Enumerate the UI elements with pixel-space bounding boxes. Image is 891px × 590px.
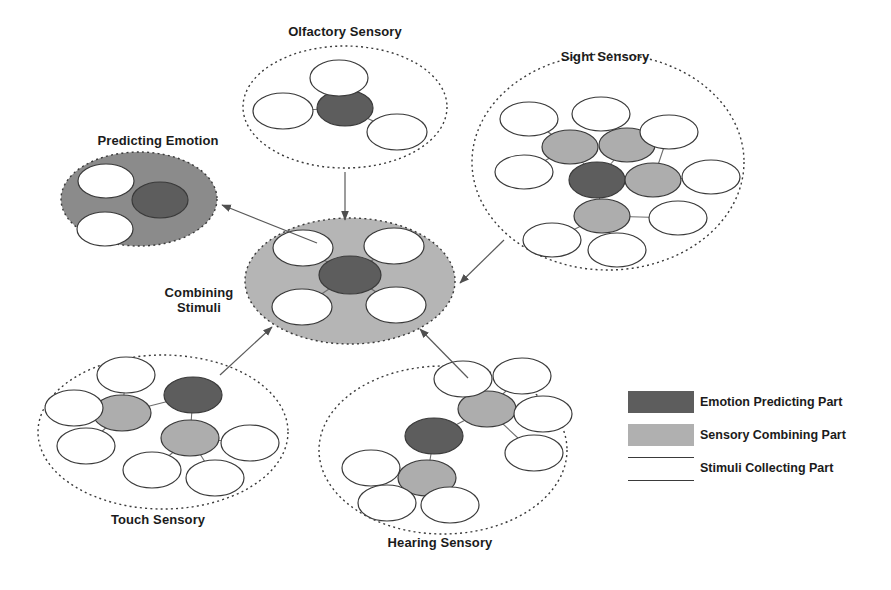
- node-stimuli-collecting-olfactory-sensory-3: [367, 114, 427, 150]
- diagram-canvas: Olfactory SensorySight SensoryTouch Sens…: [0, 0, 891, 590]
- node-stimuli-collecting-touch-sensory-8: [221, 425, 279, 461]
- node-stimuli-collecting-hearing-sensory-9: [421, 487, 479, 523]
- node-stimuli-collecting-touch-sensory-3: [97, 357, 155, 393]
- node-stimuli-collecting-touch-sensory-4: [45, 390, 103, 426]
- node-emotion-predicting-touch-sensory-0: [164, 377, 222, 413]
- node-stimuli-collecting-hearing-sensory-3: [434, 361, 492, 397]
- node-stimuli-collecting-hearing-sensory-8: [358, 485, 416, 521]
- legend-swatch-emotion-predicting-part: [628, 391, 694, 413]
- node-stimuli-collecting-sight-sensory-12: [588, 233, 646, 267]
- node-sensory-combining-sight-sensory-1: [542, 130, 598, 164]
- flow-arrow-sight-to-combining: [460, 240, 504, 283]
- node-emotion-predicting-hearing-sensory-0: [405, 418, 463, 454]
- cluster-label-sight-sensory: Sight Sensory: [561, 49, 650, 64]
- flow-arrow-combining-to-predicting: [222, 205, 317, 243]
- cluster-label-predicting-emotion: Predicting Emotion: [98, 133, 219, 148]
- node-stimuli-collecting-touch-sensory-6: [123, 452, 181, 488]
- node-stimuli-collecting-combining-stimuli-3: [272, 289, 332, 325]
- node-stimuli-collecting-combining-stimuli-2: [364, 228, 424, 264]
- node-sensory-combining-sight-sensory-4: [574, 199, 630, 233]
- node-stimuli-collecting-olfactory-sensory-2: [253, 93, 313, 129]
- node-emotion-predicting-predicting-emotion-0: [132, 182, 188, 218]
- cluster-label-combining-stimuli: Combining Stimuli: [165, 285, 234, 316]
- node-stimuli-collecting-hearing-sensory-6: [505, 435, 563, 471]
- cluster-label-touch-sensory: Touch Sensory: [111, 512, 205, 527]
- node-stimuli-collecting-predicting-emotion-2: [77, 212, 133, 246]
- node-stimuli-collecting-combining-stimuli-4: [366, 287, 426, 323]
- node-stimuli-collecting-sight-sensory-9: [682, 160, 740, 194]
- node-stimuli-collecting-sight-sensory-10: [649, 201, 707, 235]
- node-stimuli-collecting-touch-sensory-5: [57, 428, 115, 464]
- cluster-label-hearing-sensory: Hearing Sensory: [388, 535, 493, 550]
- node-stimuli-collecting-sight-sensory-6: [572, 97, 630, 131]
- legend-label-stimuli-collecting-part: Stimuli Collecting Part: [700, 461, 833, 475]
- node-emotion-predicting-combining-stimuli-0: [319, 256, 381, 294]
- node-stimuli-collecting-predicting-emotion-1: [78, 164, 134, 198]
- node-stimuli-collecting-sight-sensory-5: [500, 102, 558, 136]
- node-stimuli-collecting-sight-sensory-7: [640, 115, 698, 149]
- node-sensory-combining-sight-sensory-3: [625, 163, 681, 197]
- cluster-label-olfactory-sensory: Olfactory Sensory: [288, 24, 402, 39]
- cluster-nodes-layer: [45, 60, 740, 523]
- legend-swatch-sensory-combining-part: [628, 424, 694, 446]
- diagram-svg: [0, 0, 891, 590]
- flow-arrow-touch-to-combining: [220, 327, 272, 375]
- node-sensory-combining-touch-sensory-2: [161, 420, 219, 456]
- legend-swatch-stimuli-collecting-part: [628, 457, 694, 481]
- legend-label-emotion-predicting-part: Emotion Predicting Part: [700, 395, 842, 409]
- node-stimuli-collecting-hearing-sensory-7: [342, 450, 400, 486]
- node-stimuli-collecting-combining-stimuli-1: [273, 230, 333, 266]
- legend-label-sensory-combining-part: Sensory Combining Part: [700, 428, 846, 442]
- node-stimuli-collecting-sight-sensory-8: [495, 155, 553, 189]
- node-stimuli-collecting-sight-sensory-11: [523, 223, 581, 257]
- node-emotion-predicting-sight-sensory-0: [569, 162, 625, 198]
- node-stimuli-collecting-touch-sensory-7: [186, 460, 244, 496]
- node-stimuli-collecting-hearing-sensory-4: [493, 358, 551, 394]
- node-stimuli-collecting-olfactory-sensory-1: [310, 60, 368, 96]
- node-stimuli-collecting-hearing-sensory-5: [514, 396, 572, 432]
